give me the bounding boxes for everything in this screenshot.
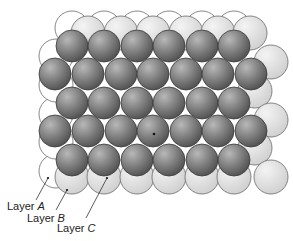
layer-a-label: Layer A [7,200,45,212]
layer-a-letter: A [38,200,45,212]
layer-c-prefix: Layer [57,222,88,234]
layer-c-label: Layer C [57,222,96,234]
layer-c-letter: C [88,222,96,234]
center-dot [153,133,156,136]
layer-b-prefix: Layer [27,212,58,224]
layer-c-spheres [39,30,267,176]
layer-a-prefix: Layer [7,200,38,212]
